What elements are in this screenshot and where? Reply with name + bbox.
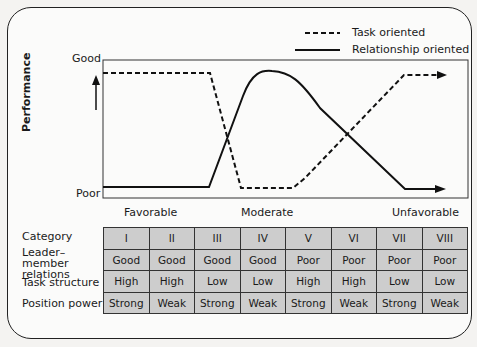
table-cell: High bbox=[286, 271, 332, 293]
row-label-category: Category bbox=[22, 231, 72, 242]
table-cell: Low bbox=[195, 271, 241, 293]
table-cell: Weak bbox=[422, 292, 468, 314]
table-cell: Good bbox=[149, 249, 195, 271]
table-cell: Weak bbox=[331, 292, 377, 314]
table-cell: Weak bbox=[240, 292, 286, 314]
table-cell: Low bbox=[422, 271, 468, 293]
relationship-oriented-line bbox=[103, 71, 438, 189]
table-row-task-structure: High High Low Low High High Low Low bbox=[104, 271, 468, 293]
table-cell: VIII bbox=[422, 228, 468, 250]
y-arrow-head-icon bbox=[92, 75, 100, 85]
relationship-arrow-head-icon bbox=[435, 185, 446, 193]
table-cell: High bbox=[149, 271, 195, 293]
y-good-label: Good bbox=[72, 52, 101, 65]
table-cell: III bbox=[195, 228, 241, 250]
plot-area bbox=[103, 60, 468, 198]
table-cell: Weak bbox=[149, 292, 195, 314]
table-cell: Low bbox=[377, 271, 423, 293]
table-cell: I bbox=[104, 228, 150, 250]
table-cell: Strong bbox=[195, 292, 241, 314]
table-cell: Good bbox=[195, 249, 241, 271]
table-row-category: I II III IV V VI VII VIII bbox=[104, 228, 468, 250]
table-cell: Strong bbox=[286, 292, 332, 314]
table-cell: Strong bbox=[377, 292, 423, 314]
table-cell: Poor bbox=[377, 249, 423, 271]
table-cell: High bbox=[104, 271, 150, 293]
table-cell: Poor bbox=[422, 249, 468, 271]
table-cell: VI bbox=[331, 228, 377, 250]
table-row-position-power: Strong Weak Strong Weak Strong Weak Stro… bbox=[104, 292, 468, 314]
table-cell: Good bbox=[104, 249, 150, 271]
task-arrow-head-icon bbox=[437, 71, 447, 79]
table-cell: Poor bbox=[331, 249, 377, 271]
table-cell: II bbox=[149, 228, 195, 250]
x-label-favorable: Favorable bbox=[124, 206, 177, 219]
table-cell: VII bbox=[377, 228, 423, 250]
table-cell: Good bbox=[240, 249, 286, 271]
x-label-unfavorable: Unfavorable bbox=[392, 206, 459, 219]
legend-task-label: Task oriented bbox=[352, 26, 425, 39]
task-oriented-line bbox=[103, 73, 440, 188]
row-label-task-structure: Task structure bbox=[22, 277, 99, 288]
table-cell: Strong bbox=[104, 292, 150, 314]
table-cell: Low bbox=[240, 271, 286, 293]
table-cell: High bbox=[331, 271, 377, 293]
x-label-moderate: Moderate bbox=[241, 206, 293, 219]
row-label-position-power: Position power bbox=[22, 298, 102, 309]
table-cell: Poor bbox=[286, 249, 332, 271]
table-row-leader-member: Good Good Good Good Poor Poor Poor Poor bbox=[104, 249, 468, 271]
y-axis-label: Performance bbox=[20, 53, 33, 132]
table-cell: IV bbox=[240, 228, 286, 250]
table-cell: V bbox=[286, 228, 332, 250]
y-poor-label: Poor bbox=[76, 187, 100, 200]
legend-relationship-label: Relationship oriented bbox=[352, 43, 469, 56]
situation-table: I II III IV V VI VII VIII Good Good Good… bbox=[103, 227, 468, 314]
